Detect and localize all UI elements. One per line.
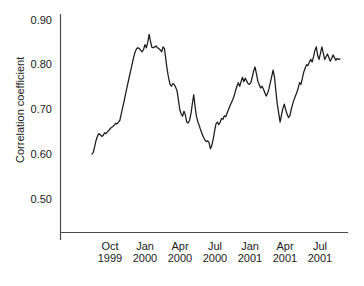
x-tick-label-2: Apr 2000 — [160, 240, 200, 264]
y-tick-label-2: 0.70 — [18, 103, 52, 115]
x-tick-label-6: Jul 2001 — [300, 240, 340, 264]
y-tick-label-1: 0.80 — [18, 58, 52, 70]
x-tick-label-3: Jul 2000 — [195, 240, 235, 264]
x-tick-month: Apr — [160, 240, 200, 252]
x-tick-year: 2001 — [230, 252, 270, 264]
x-tick-year: 2001 — [300, 252, 340, 264]
x-tick-month: Jul — [195, 240, 235, 252]
data-series-line — [92, 34, 340, 154]
y-tick-label-3: 0.60 — [18, 148, 52, 160]
x-tick-label-1: Jan 2000 — [125, 240, 165, 264]
x-tick-year: 2001 — [265, 252, 305, 264]
x-tick-month: Jan — [230, 240, 270, 252]
y-tick-label-4: 0.50 — [18, 193, 52, 205]
chart-figure: Correlation coefficient 0.90 0.80 0.70 0… — [0, 0, 364, 286]
x-tick-year: 2000 — [195, 252, 235, 264]
x-tick-label-5: Apr 2001 — [265, 240, 305, 264]
x-tick-year: 2000 — [160, 252, 200, 264]
x-tick-year: 2000 — [125, 252, 165, 264]
x-tick-year: 1999 — [90, 252, 130, 264]
x-tick-month: Oct — [90, 240, 130, 252]
y-tick-label-0: 0.90 — [18, 14, 52, 26]
x-tick-month: Jul — [300, 240, 340, 252]
x-tick-month: Apr — [265, 240, 305, 252]
x-tick-month: Jan — [125, 240, 165, 252]
x-tick-label-0: Oct 1999 — [90, 240, 130, 264]
x-tick-label-4: Jan 2001 — [230, 240, 270, 264]
